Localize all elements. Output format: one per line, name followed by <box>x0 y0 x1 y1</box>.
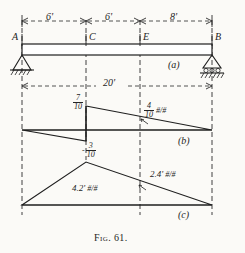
moment-secondary-value: 2.4' <box>150 170 163 179</box>
dimension-label-span: 20' <box>103 78 115 88</box>
node-label-A: A <box>12 32 18 42</box>
figure-caption: Fig. 61. <box>94 232 128 243</box>
shear-value-positive: 7 10 <box>73 94 83 111</box>
fraction-denominator: 10 <box>73 103 83 111</box>
units-label: #/# <box>156 107 166 115</box>
fraction-three-tenths: 3 10 <box>86 142 96 159</box>
node-label-B: B <box>215 32 221 42</box>
units-label: #/# <box>87 185 97 193</box>
beam-member <box>22 34 212 55</box>
moment-secondary-label: 2.4' #/# <box>150 170 175 179</box>
moment-peak-label: 4.2' #/# <box>72 184 97 193</box>
dimension-label-EB: 8' <box>170 12 177 22</box>
units-label: #/# <box>165 171 175 179</box>
shear-slope-rate-label: 4 10 #/# <box>144 102 166 119</box>
figure-drawing <box>0 0 245 253</box>
fraction-denominator: 10 <box>86 151 96 159</box>
part-label-a: (a) <box>168 60 180 70</box>
node-label-C: C <box>89 32 96 42</box>
moment-peak-value: 4.2' <box>72 184 85 193</box>
roller-support-B <box>200 55 224 78</box>
fraction-four-tenths: 4 10 <box>144 102 154 119</box>
part-label-b: (b) <box>178 136 190 146</box>
span-dimension-line <box>22 83 212 89</box>
dimension-label-CE: 6' <box>105 12 112 22</box>
fraction-seven-tenths: 7 10 <box>73 94 83 111</box>
dimension-label-AC: 6' <box>46 12 53 22</box>
moment-diagram-plot <box>22 162 212 205</box>
part-label-c: (c) <box>178 210 189 220</box>
negative-sign: - <box>82 147 85 155</box>
fraction-denominator: 10 <box>144 111 154 119</box>
shear-value-negative: - 3 10 <box>82 142 96 159</box>
figure-container: 6' 6' 8' 20' A C E B (a) (b) (c) 7 10 - … <box>0 0 245 253</box>
node-label-E: E <box>143 32 149 42</box>
